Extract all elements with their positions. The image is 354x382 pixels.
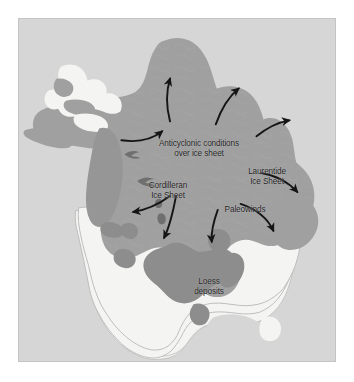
figure-root: Anticyclonic conditions over ice sheet L…	[0, 0, 354, 382]
gulf-of-mexico	[201, 314, 281, 361]
map-panel: Anticyclonic conditions over ice sheet L…	[18, 18, 336, 362]
north-america-glacial-map	[19, 19, 335, 361]
